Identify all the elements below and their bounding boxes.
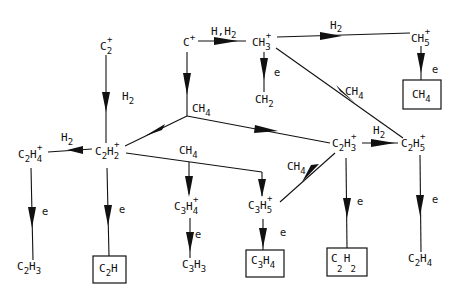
node-c2h3: C2H3 [17,260,41,276]
node-ch3-plus: CH3+ [252,30,272,52]
node-c2h-product: C2H [99,262,118,278]
reaction-network-diagram: C2+ C+ CH3+ CH5+ CH4 CH2 C2H4+ C2H2+ C2H… [0,0,454,295]
edge-cp-junction [183,52,191,116]
edge-cp-ch3p [198,37,246,45]
node-c2-plus: C2+ [100,34,113,56]
edge-ch5p-ch4 [417,46,425,80]
label-h2-c2h2-c2h4: H2 [61,131,73,147]
label-ch4-junction: CH4 [192,102,211,118]
edge-c2h4p-c2h3 [28,168,36,260]
node-c2h3-plus: C2H3+ [332,131,357,153]
node-ch4-product: CH4 [412,88,431,104]
node-c2h5-plus: C2H5+ [401,131,426,153]
label-e-c2h3-c2h2: e [357,196,363,207]
label-h2-c2-c2h2: H2 [122,90,134,106]
edge-c3h5p-c3h4 [259,219,267,250]
edge-junction-c2h2p [125,116,187,146]
label-e-ch5-ch4: e [432,64,438,75]
node-c2h4-plus: C2H4+ [18,142,43,164]
label-e-c3h4-c3h3: e [195,229,201,240]
label-h2-c2h3-c2h5: H2 [373,124,385,140]
edge-junction-c2h3p [187,116,330,143]
label-e-ch3-ch2: e [274,67,280,78]
edge-c2h3p-c2h2 [343,158,351,248]
label-h2-ch3-ch5: H2 [330,19,342,34]
label-ch4-bracket: CH4 [179,144,198,160]
node-c3h3: C3H3 [182,258,206,274]
edge-ch3p-ch5p [277,32,410,40]
edge-c2h2p-c2h4p [48,146,92,154]
edge-c3h4p-c3h3 [186,218,194,258]
edge-c2h5p-c2h4 [416,155,424,252]
label-e-c2h5-c2h4: e [432,194,438,205]
node-ch2: CH2 [255,93,274,109]
node-c3h5-plus: C3H5+ [248,193,273,215]
edge-ch3p-c2h5p [276,48,403,138]
edge-c2p-c2h2p [102,55,110,143]
node-c2h2-product-subs: 22 [337,264,356,274]
label-h-h2: H,H2 [211,25,236,40]
node-c3h4-plus: C3H4+ [174,194,199,216]
edge-c2h2p-c2h [104,168,112,256]
label-e-c2h4-c2h3: e [42,206,48,217]
edge-ch3p-ch2 [260,52,268,92]
node-c2h4: C2H4 [408,252,432,268]
label-e-c2h2-c2h: e [119,204,125,215]
edge-c2h3p-c2h5p [362,139,398,147]
node-c3h4-product: C3H4 [251,254,275,270]
node-c-plus: C+ [183,32,196,49]
label-ch4-c2h3-c3h5: CH4 [287,160,306,176]
node-ch5-plus: CH5+ [411,26,431,48]
label-e-c3h5-c3h4: e [280,227,286,238]
node-c2h2-plus: C2H2+ [95,139,120,161]
